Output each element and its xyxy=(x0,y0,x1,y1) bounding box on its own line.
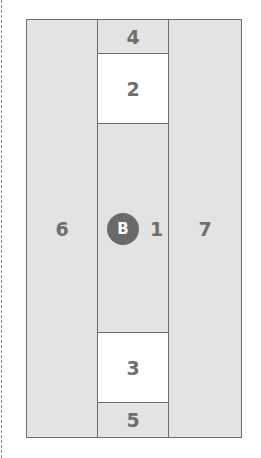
region-3-label: 3 xyxy=(126,357,139,379)
region-6-label: 6 xyxy=(55,218,68,240)
region-2-label: 2 xyxy=(126,78,139,100)
region-7: 7 xyxy=(168,19,242,438)
region-7-label: 7 xyxy=(198,218,211,240)
region-3: 3 xyxy=(97,332,169,403)
region-5: 5 xyxy=(97,402,169,438)
region-5-label: 5 xyxy=(126,409,139,431)
marker-b-badge: B xyxy=(107,213,139,245)
region-4: 4 xyxy=(97,19,169,54)
region-2: 2 xyxy=(97,53,169,124)
region-1-label: 1 xyxy=(150,218,163,240)
region-4-label: 4 xyxy=(126,26,139,48)
marker-b-label: B xyxy=(117,220,128,238)
dashed-divider-line xyxy=(1,0,2,458)
region-6: 6 xyxy=(26,19,98,438)
